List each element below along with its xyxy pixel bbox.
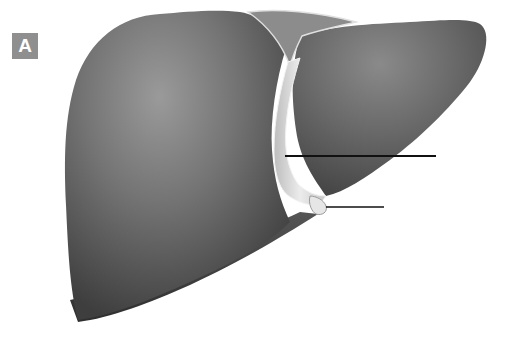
- panel-label: A: [12, 33, 38, 59]
- liver-illustration: [0, 0, 508, 340]
- liver-diagram: A: [0, 0, 508, 340]
- right-lobe: [65, 11, 290, 320]
- left-lobe: [293, 20, 487, 196]
